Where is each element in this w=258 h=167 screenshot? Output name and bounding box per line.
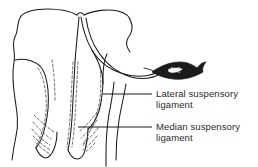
label-lateral-suspensory-ligament: Lateral suspensory ligament: [156, 89, 238, 110]
median-suspensory-dashed-a: [67, 62, 73, 147]
body-outline-left: [12, 16, 21, 160]
lateral-band-attachment: [92, 50, 103, 84]
median-cleft: [68, 17, 79, 150]
glandular-hatching-right-1: [81, 120, 97, 138]
median-cleft-top: [77, 13, 84, 15]
udder-left-lobe: [15, 59, 48, 148]
gland-outline-right: [83, 66, 101, 146]
hind-leg-contour-2: [116, 84, 126, 160]
hind-leg-contour: [106, 82, 114, 166]
udder-top-right: [84, 10, 131, 22]
flank-dashed: [52, 60, 55, 100]
label-median-suspensory-ligament: Median suspensory ligament: [156, 122, 240, 143]
glandular-hatching-left-2: [32, 129, 50, 145]
anatomy-figure: Lateral suspensory ligament Median suspe…: [0, 0, 258, 167]
udder-right-lobe: [88, 54, 107, 129]
lateral-suspensory-band-upper: [81, 17, 158, 76]
body-outline-right: [127, 22, 133, 52]
udder-top-left: [21, 9, 77, 16]
gland-outline-left: [35, 68, 46, 148]
